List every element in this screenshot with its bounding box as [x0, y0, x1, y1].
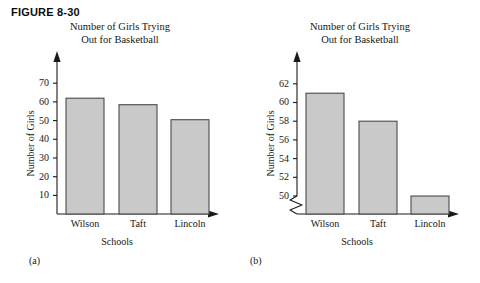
y-tick-label-b-1: 52: [264, 171, 289, 182]
bar-b-lincoln: [411, 196, 449, 214]
figure-label: FIGURE 8-30: [11, 6, 80, 18]
y-tick-label-a-5: 60: [24, 96, 49, 107]
y-tick-label-a-4: 50: [24, 115, 49, 126]
x-tick-label-b-lincoln: Lincoln: [405, 218, 455, 229]
y-axis-scale-break-b: [290, 196, 302, 214]
x-axis-label-b: Schools: [327, 236, 387, 247]
y-tick-label-b-0: 50: [264, 190, 289, 201]
y-tick-label-a-2: 30: [24, 152, 49, 163]
x-tick-label-b-taft: Taft: [353, 218, 403, 229]
x-tick-label-a-taft: Taft: [113, 218, 163, 229]
bar-b-wilson: [306, 93, 344, 214]
chart-panel-a: Number of Girls Trying Out for Basketbal…: [0, 18, 240, 283]
y-tick-label-b-2: 54: [264, 153, 289, 164]
y-tick-label-b-4: 58: [264, 115, 289, 126]
x-axis-label-a: Schools: [87, 236, 147, 247]
y-tick-label-a-0: 10: [24, 189, 49, 200]
y-axis-ticks-b: [293, 84, 297, 196]
x-axis-arrowhead-a: [208, 210, 219, 217]
chart-panel-b: Number of Girls Trying Out for Basketbal…: [240, 18, 480, 283]
panel-letter-b: (b): [250, 255, 262, 266]
y-tick-label-b-5: 60: [264, 96, 289, 107]
x-axis-arrowhead-b: [448, 210, 459, 217]
bar-a-wilson: [66, 98, 104, 214]
panel-letter-a: (a): [29, 255, 40, 266]
y-tick-label-a-6: 70: [24, 77, 49, 88]
y-tick-label-b-3: 56: [264, 134, 289, 145]
x-tick-label-a-wilson: Wilson: [60, 218, 110, 229]
y-tick-label-b-6: 62: [264, 78, 289, 89]
y-tick-label-a-3: 40: [24, 133, 49, 144]
y-axis-arrowhead-a: [53, 51, 60, 62]
x-tick-label-b-wilson: Wilson: [300, 218, 350, 229]
y-tick-label-a-1: 20: [24, 171, 49, 182]
bar-b-taft: [359, 121, 397, 214]
y-axis-ticks-a: [53, 83, 57, 195]
bar-a-lincoln: [171, 120, 209, 214]
x-tick-label-a-lincoln: Lincoln: [165, 218, 215, 229]
y-axis-arrowhead-b: [293, 51, 300, 62]
bar-a-taft: [119, 105, 157, 214]
